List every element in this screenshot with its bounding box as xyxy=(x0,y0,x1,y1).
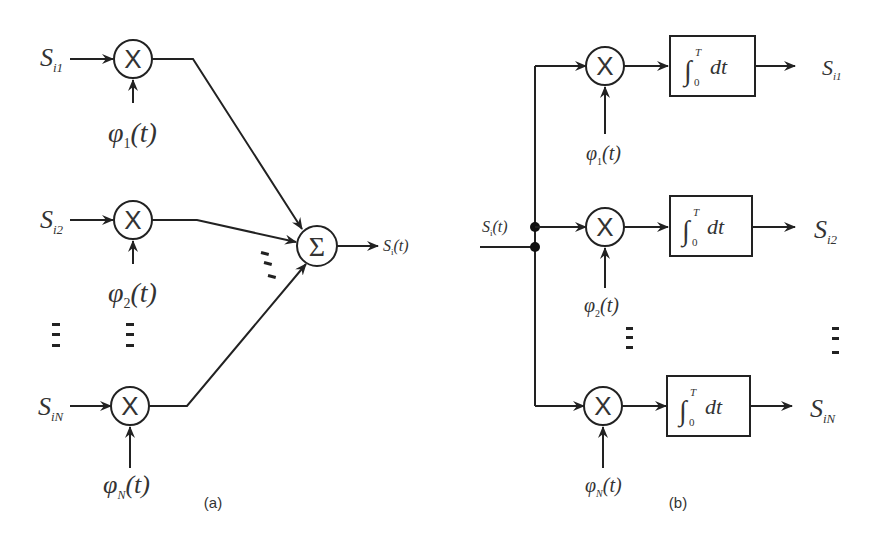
svg-text:0: 0 xyxy=(689,416,695,428)
correlator-branch-1: X φ1(t) ∫ T 0 dt Si1 xyxy=(535,36,842,167)
multiply-icon: X xyxy=(124,44,141,74)
svg-text:0: 0 xyxy=(694,76,700,88)
multiply-icon: X xyxy=(124,205,141,235)
panel-a: Si1 X φ1(t) Si2 X φ2(t) xyxy=(38,40,409,511)
caption-b: (b) xyxy=(669,494,687,511)
sigma-icon: Σ xyxy=(309,231,325,262)
input-s-i2: Si2 xyxy=(40,205,64,237)
svg-text:dt: dt xyxy=(705,394,723,419)
correlator-branch-n: X φN(t) ∫ T 0 dt SiN xyxy=(535,376,837,499)
caption-a: (a) xyxy=(204,494,222,511)
svg-text:dt: dt xyxy=(707,214,725,239)
basis-phi-2: φ2(t) xyxy=(584,294,619,319)
ellipsis-dots xyxy=(626,327,839,354)
input-s-i1: Si1 xyxy=(40,43,63,75)
svg-text:T: T xyxy=(693,206,700,218)
multiply-icon: X xyxy=(596,212,613,242)
modulator-row-2: Si2 X φ2(t) xyxy=(40,201,296,311)
multiply-icon: X xyxy=(596,51,613,81)
svg-text:0: 0 xyxy=(692,236,698,248)
output-s-in: SiN xyxy=(810,394,837,426)
input-s-in: SiN xyxy=(38,392,65,424)
figure-canvas: Si1 X φ1(t) Si2 X φ2(t) xyxy=(0,0,882,539)
basis-phi-n: φN(t) xyxy=(585,474,622,499)
output-s-i-t: Si(t) xyxy=(383,237,409,257)
multiply-icon: X xyxy=(594,391,611,421)
correlator-branch-2: X φ2(t) ∫ T 0 dt Si2 xyxy=(535,196,838,319)
basis-phi-n: φN(t) xyxy=(103,470,150,502)
basis-phi-1: φ1(t) xyxy=(586,142,621,167)
multiply-icon: X xyxy=(121,391,138,421)
junction-dot xyxy=(530,242,540,252)
svg-text:T: T xyxy=(690,386,697,398)
input-s-i-t: Si(t) xyxy=(482,218,508,238)
summer: Σ Si(t) xyxy=(297,226,409,266)
line-to-sum-n xyxy=(149,264,306,406)
ellipsis-dots xyxy=(52,251,276,347)
line-to-sum-1 xyxy=(152,59,302,229)
basis-phi-1: φ1(t) xyxy=(108,117,157,151)
svg-text:T: T xyxy=(695,46,702,58)
modulator-row-1: Si1 X φ1(t) xyxy=(40,40,302,229)
output-s-i2: Si2 xyxy=(814,215,838,247)
line-to-sum-2 xyxy=(152,220,296,242)
output-s-i1: Si1 xyxy=(822,55,842,82)
panel-b: Si(t) X φ1(t) ∫ T 0 dt Si1 xyxy=(480,36,842,511)
modulator-row-n: SiN X φN(t) xyxy=(38,264,306,502)
svg-text:dt: dt xyxy=(710,54,728,79)
basis-phi-2: φ2(t) xyxy=(108,277,157,311)
